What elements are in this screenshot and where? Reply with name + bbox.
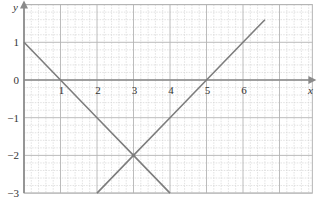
minor-grid [24,5,312,194]
x-tick-label: 1 [59,84,65,96]
data-line-2 [97,20,265,193]
intersection-point [132,154,136,158]
x-tick-label: 4 [168,84,174,96]
x-tick-label: 6 [241,84,247,96]
y-tick-label: 0 [14,74,20,86]
x-tick-label: 2 [95,84,101,96]
y-tick-label: −1 [7,112,19,124]
graph-canvas: 12345610−1−2−3yx [0,0,317,207]
y-axis-label: y [12,1,18,13]
y-tick-label: −3 [7,187,19,199]
grid-border [24,5,312,194]
x-tick-label: 5 [205,84,211,96]
major-grid [24,5,312,194]
axes [20,1,316,194]
line-graph: 12345610−1−2−3yx [0,0,317,207]
x-tick-label: 3 [132,84,138,96]
x-axis-label: x [307,84,313,96]
y-tick-label: 1 [14,36,20,48]
y-tick-label: −2 [7,149,19,161]
